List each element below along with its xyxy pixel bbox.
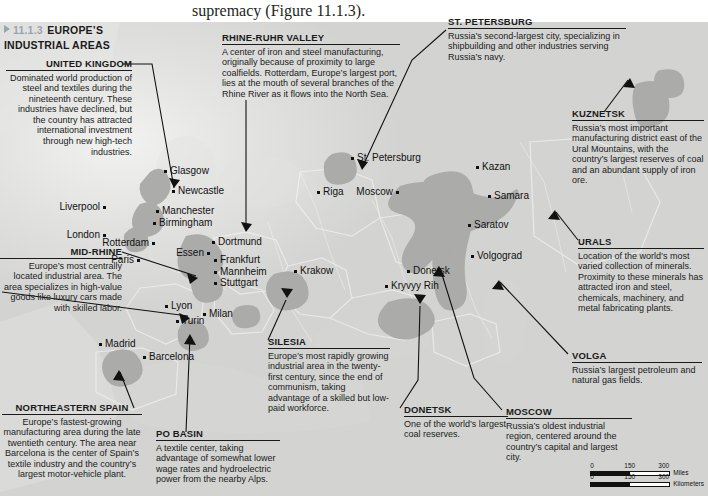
city-dot-icon — [143, 356, 146, 359]
callout-body: One of the world’s largest coal reserves… — [404, 419, 508, 440]
city-dot-icon — [396, 191, 399, 194]
city-name: Manchester — [162, 205, 214, 216]
triangle-right-icon — [4, 25, 10, 33]
city-dot-icon — [176, 320, 179, 323]
callout-rhine-ruhr-valley: RHINE-RUHR VALLEY A center of iron and s… — [222, 32, 400, 99]
city-name: Riga — [323, 186, 344, 197]
city-dot-icon — [203, 313, 206, 316]
city-label: Riga — [323, 186, 344, 197]
city-name: Stuttgart — [220, 277, 258, 288]
section-number: 11.1.3 — [13, 24, 43, 36]
map-scale-bar: 0 150 300 Miles 0 150 300 Kilometers — [590, 469, 704, 491]
city-label: Kryvyy Rih — [391, 280, 439, 291]
map-figure-page: supremacy (Figure 11.1.3). — [0, 0, 708, 496]
city-label: Stuttgart — [220, 277, 258, 288]
callout-body: Location of the world’s most varied coll… — [578, 251, 704, 315]
city-label: Kazan — [482, 161, 510, 172]
callout-donetsk: DONETSK One of the world’s largest coal … — [404, 404, 508, 440]
scale-tick-0: 0 — [590, 462, 594, 469]
city-name: Barcelona — [149, 351, 194, 362]
scale-tick-km-300: 300 — [658, 473, 669, 480]
city-name: Madrid — [105, 338, 136, 349]
callout-body: Europe’s most rapidly growing industrial… — [268, 351, 390, 415]
city-name: Turin — [182, 315, 204, 326]
callout-body: Russia’s most important manufacturing di… — [572, 123, 704, 187]
city-label: Birmingham — [159, 217, 212, 228]
city-label: Manchester — [162, 205, 214, 216]
city-name: Mannheim — [220, 266, 267, 277]
city-label: Barcelona — [149, 351, 194, 362]
city-dot-icon — [488, 195, 491, 198]
callout-heading: DONETSK — [404, 404, 508, 417]
callout-heading: RHINE-RUHR VALLEY — [222, 32, 400, 45]
callout-heading: MID-RHINE — [0, 246, 122, 259]
city-name: London — [67, 229, 100, 240]
city-dot-icon — [153, 222, 156, 225]
section-title-line1: EUROPE’S — [47, 24, 103, 36]
city-label: Liverpool — [59, 201, 100, 212]
scale-tick-300: 300 — [658, 462, 669, 469]
callout-kuznetsk: KUZNETSK Russia’s most important manufac… — [572, 108, 704, 186]
city-name: Newcastle — [178, 185, 224, 196]
city-dot-icon — [207, 252, 210, 255]
callout-northeastern-spain: NORTHEASTERN SPAIN Europe’s fastest-grow… — [2, 402, 142, 480]
callout-body: Dominated world production of steel and … — [6, 73, 132, 158]
callout-body: A textile center, taking advantage of so… — [156, 443, 280, 485]
city-label: Volgograd — [477, 250, 522, 261]
callout-heading: UNITED KINGDOM — [6, 58, 132, 71]
callout-mid-rhine: MID-RHINE Europe’s most centrally locate… — [0, 246, 122, 313]
city-name: Milan — [209, 308, 233, 319]
callout-heading: KUZNETSK — [572, 108, 704, 121]
callout-body: Europe’s fastest-growing manufacturing a… — [2, 417, 142, 481]
callout-heading: NORTHEASTERN SPAIN — [2, 402, 142, 415]
city-name: Lyon — [171, 300, 192, 311]
city-name: Moscow — [356, 186, 393, 197]
callout-body: Russia’s second-largest city, specializi… — [448, 31, 626, 63]
callout-heading: URALS — [578, 236, 704, 249]
callout-heading: PO BASIN — [156, 428, 280, 441]
city-name: Saratov — [474, 219, 508, 230]
city-dot-icon — [165, 305, 168, 308]
city-dot-icon — [476, 166, 479, 169]
callout-st-petersburg: ST. PETERSBURG Russia’s second-largest c… — [448, 16, 626, 62]
city-label: Lyon — [171, 300, 192, 311]
city-label: Mannheim — [220, 266, 267, 277]
scale-tick-km-150: 150 — [624, 473, 635, 480]
city-label: Essen — [176, 247, 204, 258]
city-label: Newcastle — [178, 185, 224, 196]
callout-body: Russia’s largest petroleum and natural g… — [572, 365, 702, 386]
city-label: St. Petersburg — [357, 152, 421, 163]
callout-urals: URALS Location of the world’s most varie… — [578, 236, 704, 314]
scale-tick-150: 150 — [624, 462, 635, 469]
city-label: Krakow — [300, 265, 333, 276]
callout-heading: SILESIA — [268, 336, 390, 349]
city-name: Krakow — [300, 265, 333, 276]
scale-unit-km: Kilometers — [673, 480, 704, 487]
scale-unit-miles: Miles — [673, 469, 688, 476]
scale-bar-km — [590, 482, 670, 487]
city-dot-icon — [152, 242, 155, 245]
callout-volga: VOLGA Russia’s largest petroleum and nat… — [572, 350, 702, 386]
city-label: Dortmund — [218, 236, 262, 247]
city-name: Birmingham — [159, 217, 212, 228]
city-dot-icon — [214, 271, 217, 274]
section-heading: 11.1.3 EUROPE’S INDUSTRIAL AREAS — [4, 20, 110, 51]
callout-united-kingdom: UNITED KINGDOM Dominated world productio… — [6, 58, 132, 157]
city-name: Donetsk — [413, 265, 450, 276]
city-dot-icon — [294, 270, 297, 273]
city-name: Dortmund — [218, 236, 262, 247]
callout-moscow: MOSCOW Russia’s oldest industrial region… — [506, 406, 632, 463]
city-name: St. Petersburg — [357, 152, 421, 163]
city-label: Milan — [209, 308, 233, 319]
city-label: Madrid — [105, 338, 136, 349]
callout-heading: MOSCOW — [506, 406, 632, 419]
city-label: Donetsk — [413, 265, 450, 276]
city-dot-icon — [164, 170, 167, 173]
callout-silesia: SILESIA Europe’s most rapidly growing in… — [268, 336, 390, 414]
city-name: Liverpool — [59, 201, 100, 212]
city-dot-icon — [407, 270, 410, 273]
city-name: Volgograd — [477, 250, 522, 261]
callout-body: Europe’s most centrally located industri… — [0, 261, 122, 314]
callout-body: A center of iron and steel manufacturing… — [222, 47, 400, 100]
scale-miles-row: 0 150 300 Miles — [590, 469, 704, 480]
